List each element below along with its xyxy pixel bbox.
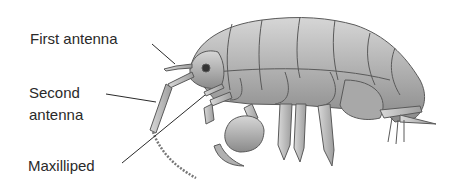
first-antenna-leader — [152, 44, 175, 64]
tail-drawing — [380, 106, 436, 144]
second-antenna-drawing — [150, 72, 196, 178]
first-antenna-drawing — [164, 64, 192, 71]
second-antenna-leader — [106, 94, 156, 102]
label-second-antenna-line1: Second — [29, 84, 80, 101]
gnathopod-drawing — [214, 104, 264, 166]
label-first-antenna: First antenna — [30, 30, 118, 47]
body — [190, 17, 425, 122]
label-maxilliped: Maxilliped — [28, 157, 95, 174]
leader-lines — [106, 44, 205, 163]
label-second-antenna-line2: antenna — [29, 106, 83, 123]
walking-legs-drawing — [278, 104, 334, 166]
